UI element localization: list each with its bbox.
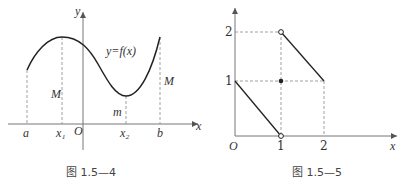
figure-1-5-5: 2 1 1 2 O x 图 1.5—5 [225, 8, 397, 179]
y-tick-2: 2 [225, 25, 233, 39]
caption-1-5-5: 图 1.5—5 [292, 166, 342, 179]
y-tick-1: 1 [225, 74, 233, 88]
tick-a: a [23, 126, 29, 140]
open-point-1-2 [279, 30, 284, 35]
y-axis-label: y [74, 4, 81, 18]
figure-canvas: y x O y=f(x) a x₁ x₂ b M M m 图 1.5—4 2 1… [0, 0, 402, 185]
function-curve [27, 37, 160, 96]
tick-b: b [157, 126, 163, 140]
dashed-guides [27, 37, 160, 124]
open-point-1-0 [279, 134, 284, 139]
x-tick-2: 2 [320, 139, 328, 153]
x-tick-1: 1 [277, 139, 285, 153]
origin-label: O [229, 139, 238, 153]
segment-1 [235, 81, 281, 136]
x-axis-label: x [389, 139, 396, 153]
curve-label: y=f(x) [105, 44, 136, 58]
tick-x1: x₁ [55, 126, 66, 140]
figure-1-5-4: y x O y=f(x) a x₁ x₂ b M M m 图 1.5—4 [8, 4, 202, 179]
x-axis-label: x [195, 119, 202, 133]
closed-point-1-1 [279, 79, 284, 84]
segment-2 [281, 32, 324, 81]
origin-label: O [74, 124, 83, 138]
min-label: m [113, 105, 122, 119]
max-label-right: M [163, 74, 175, 88]
caption-1-5-4: 图 1.5—4 [66, 166, 116, 179]
max-label-left: M [50, 87, 62, 101]
dashed-guides [235, 32, 324, 136]
tick-x2: x₂ [119, 126, 130, 140]
